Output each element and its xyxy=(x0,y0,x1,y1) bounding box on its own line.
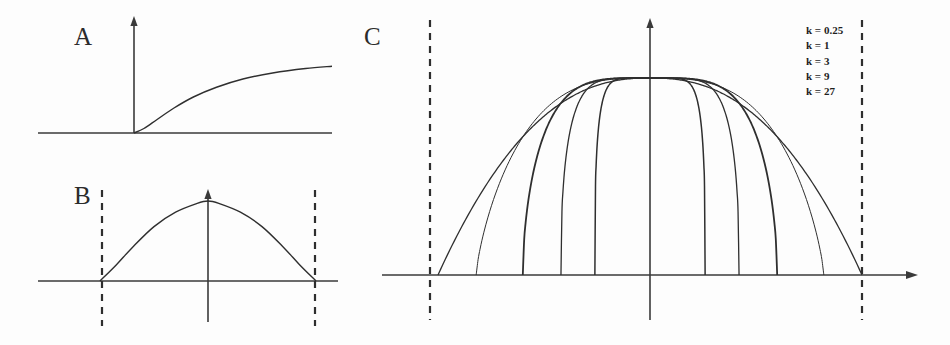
figure-svg xyxy=(0,0,950,345)
panel-b-plot xyxy=(38,189,338,326)
figure-canvas: A B C k = 0.25 k = 1 k = 3 k = 9 k = 27 xyxy=(0,0,950,345)
panel-b-y-axis-arrow xyxy=(204,189,211,199)
panel-a-y-axis-arrow xyxy=(130,16,137,26)
panel-a-plot xyxy=(38,16,332,133)
panel-c-x-axis-arrow xyxy=(906,271,918,279)
panel-c-y-axis-arrow xyxy=(646,18,653,28)
panel-a-curve xyxy=(134,66,332,133)
panel-c-plot xyxy=(382,18,918,320)
